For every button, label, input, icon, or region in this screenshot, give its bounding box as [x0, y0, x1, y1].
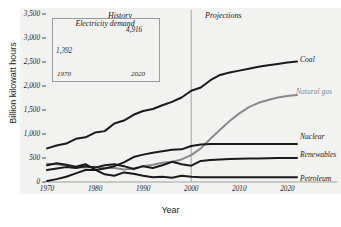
y-tick-3500: 3,500 — [2, 10, 40, 18]
x-tick-2000: 2000 — [174, 185, 208, 193]
y-axis-title: Billion kilowatt hours — [8, 18, 18, 148]
series-label-nuclear: Nuclear — [300, 132, 324, 141]
x-tick-2010: 2010 — [222, 185, 256, 193]
x-tick-2020: 2020 — [270, 185, 304, 193]
inset-xtick-2020: 2020 — [131, 70, 145, 78]
projections-label: Projections — [205, 11, 242, 20]
chart-figure: 05001,0001,5002,0002,5003,0003,500 19701… — [0, 0, 341, 227]
y-tick-500: 500 — [2, 154, 40, 162]
series-label-petroleum: Petroleum — [300, 174, 331, 183]
x-tick-1980: 1980 — [78, 185, 112, 193]
inset-xtick-1970: 1970 — [57, 70, 71, 78]
series-label-renewables: Renewables — [300, 150, 336, 159]
inset-value-2020: 4,916 — [126, 26, 142, 34]
inset-value-1970: 1,392 — [56, 47, 72, 55]
series-label-natural-gas: Natural gas — [296, 87, 332, 96]
series-label-coal: Coal — [300, 55, 315, 64]
x-axis-title: Year — [0, 205, 341, 215]
x-tick-1970: 1970 — [30, 185, 64, 193]
x-tick-1990: 1990 — [126, 185, 160, 193]
